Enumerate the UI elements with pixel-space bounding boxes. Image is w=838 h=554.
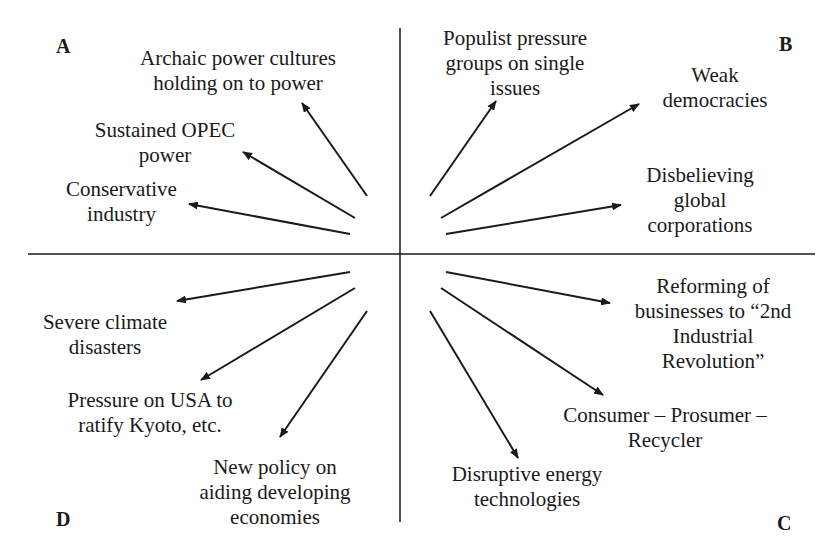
label-disbelieving-global-corporations: Disbelieving global corporations — [625, 163, 775, 238]
label-conservative-industry: Conservative industry — [54, 177, 189, 227]
arrow-opec — [243, 152, 355, 218]
arrow-reforming — [446, 272, 610, 303]
quadrant-letter-a: A — [56, 35, 70, 58]
label-weak-democracies: Weak democracies — [640, 63, 790, 113]
label-pressure-on-usa: Pressure on USA to ratify Kyoto, etc. — [50, 388, 250, 438]
arrow-populist — [430, 101, 496, 196]
label-archaic-power-cultures: Archaic power cultures holding on to pow… — [118, 46, 358, 96]
arrow-disruptive — [430, 311, 518, 458]
arrow-severe — [177, 272, 350, 301]
quadrant-letter-d: D — [56, 508, 70, 531]
label-reforming-businesses: Reforming of businesses to “2nd Industri… — [618, 274, 808, 374]
quadrant-diagram: A B C D Archaic power cultures holding o… — [0, 0, 838, 554]
label-disruptive-energy-technologies: Disruptive energy technologies — [432, 462, 622, 512]
label-severe-climate-disasters: Severe climate disasters — [30, 310, 180, 360]
arrow-disbelieving — [446, 205, 621, 234]
label-consumer-prosumer-recycler: Consumer – Prosumer – Recycler — [540, 403, 790, 453]
arrow-consumer — [441, 288, 603, 395]
label-new-policy-developing-economies: New policy on aiding developing economie… — [180, 455, 370, 530]
label-populist-pressure-groups: Populist pressure groups on single issue… — [440, 26, 590, 101]
arrow-archaic — [302, 103, 367, 196]
arrow-pressure-usa — [201, 288, 355, 380]
arrow-new-policy — [280, 311, 367, 437]
quadrant-letter-c: C — [777, 512, 791, 535]
label-sustained-opec-power: Sustained OPEC power — [80, 118, 250, 168]
arrow-conservative — [189, 204, 350, 234]
arrow-weak — [441, 104, 639, 218]
quadrant-letter-b: B — [779, 33, 792, 56]
